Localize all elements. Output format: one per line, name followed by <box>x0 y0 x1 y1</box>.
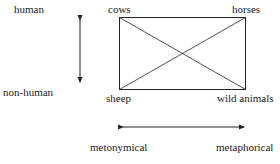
label-human: human <box>14 3 44 15</box>
label-sheep: sheep <box>106 92 131 104</box>
label-horses: horses <box>232 3 260 15</box>
label-metaphorical: metaphorical <box>216 141 273 153</box>
diagram-lines <box>0 0 280 164</box>
label-metonymical: metonymical <box>90 141 147 153</box>
label-non-human: non-human <box>3 86 53 98</box>
label-wild-animals: wild animals <box>217 92 274 104</box>
label-cows: cows <box>108 3 131 15</box>
